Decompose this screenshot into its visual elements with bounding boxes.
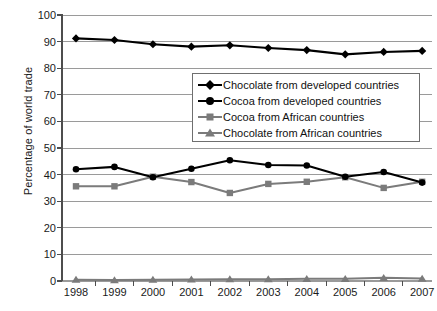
data-point-marker <box>304 179 310 185</box>
legend-item: Cocoa from developed countries <box>197 93 415 109</box>
legend-marker-diamond-icon <box>197 78 223 92</box>
legend-item: Cocoa from African countries <box>197 109 415 125</box>
plot-area <box>0 0 437 311</box>
data-point-marker <box>265 162 272 169</box>
series-2 <box>73 174 426 197</box>
data-point-marker <box>303 162 310 169</box>
data-point-marker <box>303 46 311 54</box>
data-point-marker <box>419 179 426 186</box>
data-point-marker <box>227 190 233 196</box>
legend-marker-triangle-icon <box>197 126 223 140</box>
data-point-marker <box>110 36 118 44</box>
legend-item: Chocolate from developed countries <box>197 77 415 93</box>
series-line <box>76 38 422 54</box>
data-point-marker <box>265 181 271 187</box>
data-point-marker <box>111 164 118 171</box>
data-point-marker <box>380 185 386 191</box>
series-1 <box>73 157 426 186</box>
series-line <box>76 278 422 280</box>
data-point-marker <box>187 43 195 51</box>
data-point-marker <box>188 165 195 172</box>
data-point-marker <box>380 169 387 176</box>
series-line <box>76 177 422 193</box>
legend-item: Chocolate from African countries <box>197 125 415 141</box>
legend-label: Cocoa from African countries <box>223 110 364 124</box>
data-point-marker <box>342 173 349 180</box>
data-point-marker <box>226 41 234 49</box>
data-point-marker <box>380 48 388 56</box>
data-point-marker <box>264 44 272 52</box>
series-line <box>76 160 422 182</box>
chart-legend: Chocolate from developed countriesCocoa … <box>192 73 420 142</box>
legend-marker-square-icon <box>197 110 223 124</box>
legend-label: Chocolate from developed countries <box>223 78 399 92</box>
data-point-marker <box>418 47 426 55</box>
series-0 <box>72 34 426 58</box>
data-point-marker <box>227 157 234 164</box>
data-point-marker <box>73 166 80 173</box>
data-point-marker <box>111 183 117 189</box>
data-point-marker <box>341 50 349 58</box>
data-point-marker <box>73 183 79 189</box>
data-point-marker <box>188 179 194 185</box>
chart-container: Percentage of world trade 10090807060504… <box>0 0 437 311</box>
legend-label: Chocolate from African countries <box>223 126 382 140</box>
legend-label: Cocoa from developed countries <box>223 94 381 108</box>
legend-marker-circle-icon <box>197 94 223 108</box>
data-point-marker <box>150 174 157 181</box>
